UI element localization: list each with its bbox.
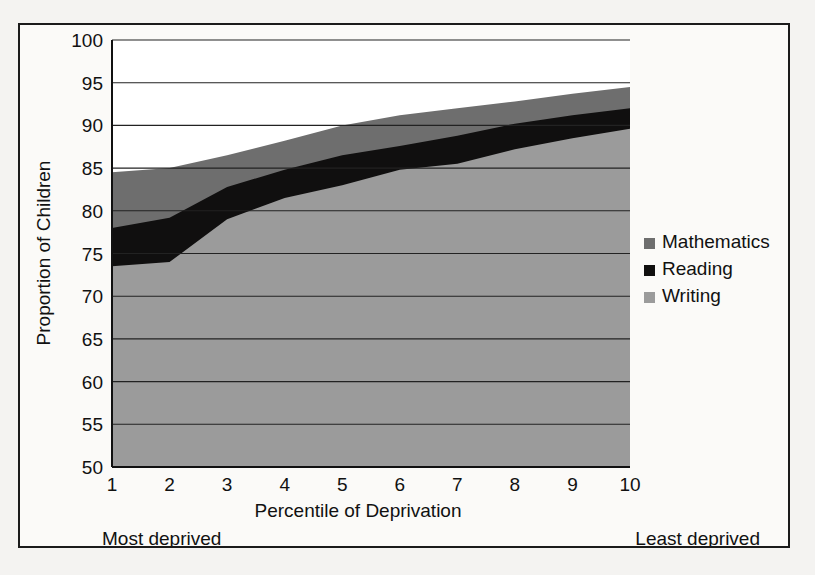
y-tick-60: 60	[82, 372, 103, 393]
annotation-least-deprived: Least deprived	[635, 528, 760, 546]
x-tick-6: 6	[394, 474, 405, 495]
y-tick-70: 70	[82, 286, 103, 307]
chart-legend: MathematicsReadingWriting	[644, 231, 770, 306]
x-tick-labels: 12345678910	[107, 474, 641, 495]
figure-frame: 50556065707580859095100 12345678910 Prop…	[18, 23, 790, 548]
legend-swatch-reading	[644, 265, 655, 276]
y-tick-95: 95	[82, 73, 103, 94]
y-tick-75: 75	[82, 244, 103, 265]
legend-label-mathematics: Mathematics	[662, 231, 770, 252]
x-tick-7: 7	[452, 474, 463, 495]
y-tick-100: 100	[71, 30, 103, 51]
x-tick-9: 9	[567, 474, 578, 495]
y-tick-80: 80	[82, 201, 103, 222]
y-tick-55: 55	[82, 414, 103, 435]
legend-swatch-mathematics	[644, 238, 655, 249]
legend-label-writing: Writing	[662, 285, 721, 306]
annotation-most-deprived: Most deprived	[102, 528, 221, 546]
x-tick-1: 1	[107, 474, 118, 495]
x-tick-8: 8	[510, 474, 521, 495]
y-tick-65: 65	[82, 329, 103, 350]
legend-label-reading: Reading	[662, 258, 733, 279]
x-tick-2: 2	[164, 474, 175, 495]
y-tick-50: 50	[82, 457, 103, 478]
stacked-area-chart: 50556065707580859095100 12345678910 Prop…	[20, 25, 788, 546]
y-axis-title: Proportion of Children	[33, 161, 54, 346]
x-tick-3: 3	[222, 474, 233, 495]
legend-swatch-writing	[644, 292, 655, 303]
y-tick-90: 90	[82, 115, 103, 136]
y-tick-labels: 50556065707580859095100	[71, 30, 103, 478]
x-tick-10: 10	[619, 474, 640, 495]
y-tick-85: 85	[82, 158, 103, 179]
x-axis-title: Percentile of Deprivation	[255, 500, 462, 521]
x-tick-4: 4	[279, 474, 290, 495]
x-tick-5: 5	[337, 474, 348, 495]
